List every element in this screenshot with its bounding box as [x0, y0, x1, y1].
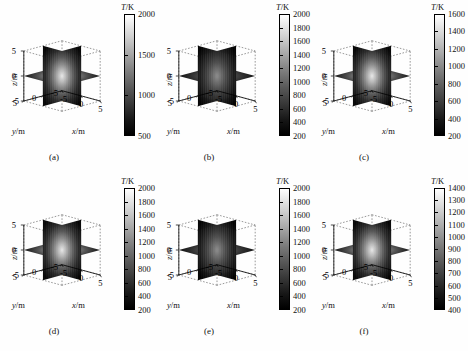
colorbar-tick-mark	[435, 200, 438, 201]
colorbar-tick-mark	[125, 296, 128, 297]
axes-3d-c: 50-550-5-505z/my/mx/m	[316, 14, 428, 140]
colorbar-tick-label: 1500	[138, 50, 155, 59]
axis-tick-mark	[255, 275, 256, 277]
colorbar-tick-mark	[435, 31, 438, 32]
x-tick: 0	[389, 100, 393, 109]
colorbar-tick-label: 600	[448, 97, 461, 106]
x-tick: 5	[408, 105, 412, 114]
axis-tick-mark	[410, 275, 411, 277]
axes-3d-e: 50-550-5-505z/my/mx/m	[161, 188, 273, 314]
colorbar-tick-mark	[280, 122, 283, 123]
colorbar-tick-mark	[280, 242, 283, 243]
colorbar-tick-mark	[125, 202, 128, 203]
colorbar-tick-mark	[125, 14, 128, 15]
x-tick: -5	[370, 269, 377, 278]
colorbar-tick-mark	[280, 188, 283, 189]
x-tick: 0	[79, 100, 83, 109]
colorbar-tick-label: 1200	[448, 208, 465, 217]
z-tick: 5	[167, 47, 171, 56]
colorbar-tick-label: 800	[448, 257, 461, 266]
axis-label-y: y/m	[12, 127, 25, 136]
colorbar-tick-mark	[125, 242, 128, 243]
y-tick: -5	[361, 263, 368, 272]
colorbar-tick-label: 1200	[448, 45, 465, 54]
colorbar-tick-mark	[280, 109, 283, 110]
colorbar-gradient	[124, 188, 135, 310]
panel-caption-f: (f)	[286, 326, 442, 336]
colorbar-tick-label: 1400	[293, 224, 310, 233]
colorbar-tick-label: 1400	[448, 184, 465, 193]
colorbar-title: T/K	[431, 2, 444, 12]
axis-tick-mark	[100, 275, 101, 277]
colorbar-tick-mark	[435, 135, 438, 136]
colorbar-tick-mark	[125, 269, 128, 270]
colorbar-tick-mark	[435, 249, 438, 250]
colorbar-tick-label: 1800	[138, 197, 155, 206]
x-tick: -5	[370, 95, 377, 104]
colorbar-tick-label: 800	[138, 265, 151, 274]
y-tick: 5	[323, 99, 327, 108]
colorbar-tick-mark	[280, 256, 283, 257]
y-tick: 5	[13, 273, 17, 282]
colorbar-tick-mark	[435, 298, 438, 299]
axes-3d-b: 50-550-5-505z/my/mx/m	[161, 14, 273, 140]
z-tick: 5	[167, 221, 171, 230]
colorbar-tick-mark	[435, 14, 438, 15]
axis-label-x: x/m	[72, 127, 85, 136]
colorbar-tick-mark	[280, 28, 283, 29]
x-tick: 0	[389, 274, 393, 283]
panel-caption-e: (e)	[131, 326, 287, 336]
colorbar-tick-label: 600	[448, 281, 461, 290]
axis-label-z: z/m	[320, 74, 329, 86]
x-tick: 5	[253, 105, 257, 114]
colorbar-tick-label: 1000	[293, 78, 310, 87]
axis-label-y: y/m	[322, 301, 335, 310]
colorbar-tick-label: 600	[293, 105, 306, 114]
colorbar-tick-mark	[280, 202, 283, 203]
colorbar-tick-mark	[125, 95, 128, 96]
x-tick: 0	[234, 274, 238, 283]
y-tick: -5	[206, 263, 213, 272]
colorbar-tick-mark	[125, 135, 128, 136]
x-tick: 0	[79, 274, 83, 283]
colorbar-tick-mark	[435, 119, 438, 120]
colorbar-tick-mark	[280, 41, 283, 42]
panel-caption-c: (c)	[286, 152, 442, 162]
figure-canvas: 50-550-5-505z/my/mx/mT/K200015001000500(…	[0, 0, 468, 351]
y-tick: -5	[206, 89, 213, 98]
colorbar-tick-mark	[435, 66, 438, 67]
colorbar-tick-mark	[435, 309, 438, 310]
colorbar-tick-mark	[280, 269, 283, 270]
colorbar-tick-mark	[435, 225, 438, 226]
colorbar-tick-label: 1100	[448, 220, 465, 229]
colorbar-tick-mark	[125, 55, 128, 56]
axis-label-x: x/m	[227, 301, 240, 310]
colorbar-gradient	[279, 188, 290, 310]
colorbar-tick-mark	[435, 273, 438, 274]
colorbar-tick-label: 400	[448, 306, 461, 315]
colorbar-tick-label: 600	[138, 279, 151, 288]
z-tick: 5	[12, 221, 16, 230]
colorbar-tick-label: 700	[448, 269, 461, 278]
colorbar-tick-mark	[280, 82, 283, 83]
colorbar-tick-label: 800	[293, 91, 306, 100]
colorbar-tick-label: 2000	[138, 184, 155, 193]
colorbar-tick-mark	[280, 215, 283, 216]
axis-label-y: y/m	[167, 127, 180, 136]
z-tick: 5	[322, 221, 326, 230]
colorbar-tick-label: 1200	[138, 238, 155, 247]
colorbar-gradient	[124, 14, 135, 136]
colorbar-tick-mark	[125, 215, 128, 216]
colorbar-tick-mark	[280, 229, 283, 230]
colorbar-tick-mark	[125, 283, 128, 284]
y-tick: 5	[168, 99, 172, 108]
axis-label-x: x/m	[227, 127, 240, 136]
colorbar-tick-label: 2000	[293, 184, 310, 193]
colorbar-tick-mark	[435, 212, 438, 213]
y-tick: 0	[342, 268, 346, 277]
colorbar-tick-label: 1200	[293, 238, 310, 247]
colorbar-tick-mark	[435, 237, 438, 238]
colorbar-tick-label: 1000	[138, 252, 155, 261]
colorbar-tick-label: 1200	[293, 64, 310, 73]
z-tick: 5	[12, 47, 16, 56]
